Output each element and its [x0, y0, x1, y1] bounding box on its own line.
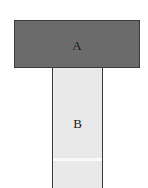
diagram-canvas: A B [0, 0, 148, 188]
shape-bar-a: A [14, 20, 140, 68]
shape-label-b: B [73, 117, 82, 130]
shape-bar-b: B [52, 67, 103, 188]
stem-seam-line [53, 158, 102, 161]
shape-label-a: A [72, 39, 81, 52]
